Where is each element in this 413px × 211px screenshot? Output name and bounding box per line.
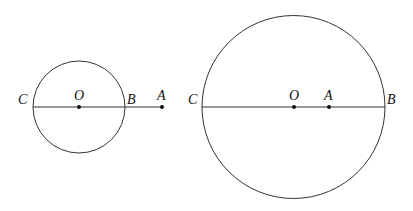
- point-a: [160, 105, 164, 109]
- figure-2: C O A B: [188, 16, 396, 199]
- label-b: B: [127, 92, 136, 107]
- label-b: B: [387, 92, 396, 107]
- label-o: O: [289, 88, 299, 103]
- diagram-canvas: C O B A C O A B: [0, 0, 413, 211]
- figure-1: C O B A: [18, 61, 166, 153]
- label-a: A: [323, 88, 333, 103]
- point-o: [292, 105, 296, 109]
- point-a: [327, 105, 331, 109]
- label-o: O: [74, 88, 84, 103]
- label-c: C: [18, 92, 28, 107]
- label-c: C: [188, 92, 198, 107]
- point-o: [77, 105, 81, 109]
- label-a: A: [156, 88, 166, 103]
